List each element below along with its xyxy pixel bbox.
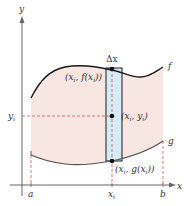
f-label: f bbox=[167, 61, 173, 71]
delta-x-label: Δx bbox=[106, 54, 118, 64]
g-label: g bbox=[168, 136, 174, 146]
bottom-point-label: (xi, g(xi)) bbox=[115, 164, 155, 175]
middle-point-label: (xi, yi) bbox=[121, 111, 148, 122]
xi-label: xi bbox=[108, 189, 115, 200]
yi-label: yi bbox=[7, 111, 15, 122]
point-bottom bbox=[110, 159, 115, 164]
y-axis-arrow-icon bbox=[20, 16, 25, 23]
a-label: a bbox=[28, 189, 33, 199]
x-axis-arrow-icon bbox=[169, 183, 176, 188]
point-middle bbox=[110, 114, 115, 119]
point-top bbox=[110, 67, 115, 72]
area-between-curves-diagram: y x f g a xi b yi Δx (xi, f(xi)) (xi, yi… bbox=[0, 0, 184, 206]
representative-strip bbox=[106, 68, 122, 161]
top-point-label: (xi, f(xi)) bbox=[65, 72, 103, 83]
x-axis-label: x bbox=[177, 181, 182, 191]
b-label: b bbox=[160, 189, 166, 199]
y-axis-label: y bbox=[18, 4, 25, 14]
